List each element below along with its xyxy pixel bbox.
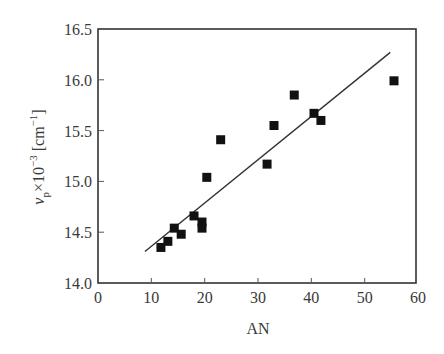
x-tick-label: 40 <box>303 289 319 306</box>
y-tick-label: 14.5 <box>64 224 92 241</box>
y-tick-label: 15.0 <box>64 173 92 190</box>
data-point-square <box>202 173 211 182</box>
y-tick-label: 16.0 <box>64 72 92 89</box>
data-point-square <box>390 76 399 85</box>
x-tick-label: 30 <box>250 289 266 306</box>
data-point-square <box>190 211 199 220</box>
data-point-square <box>263 160 272 169</box>
x-tick-label: 0 <box>94 289 102 306</box>
y-tick-label: 15.5 <box>64 123 92 140</box>
data-point-square <box>316 116 325 125</box>
y-tick-label: 16.5 <box>64 21 92 38</box>
data-point-square <box>177 230 186 239</box>
x-tick-label: 50 <box>357 289 373 306</box>
data-point-square <box>198 224 207 233</box>
data-points <box>156 76 398 252</box>
x-axis-label: AN <box>246 320 270 337</box>
plot-frame <box>98 29 416 283</box>
data-point-square <box>163 237 172 246</box>
data-point-square <box>216 135 225 144</box>
data-point-square <box>270 121 279 130</box>
scatter-chart: 0102030405060 14.014.515.015.516.016.5 A… <box>0 0 444 354</box>
y-tick-label: 14.0 <box>64 275 92 292</box>
data-point-square <box>290 91 299 100</box>
y-axis-label: νp×10−3 [cm−1] <box>27 109 51 204</box>
x-tick-label: 60 <box>410 289 426 306</box>
x-tick-label: 10 <box>143 289 159 306</box>
x-tick-label: 20 <box>197 289 213 306</box>
regression-line <box>145 52 390 251</box>
